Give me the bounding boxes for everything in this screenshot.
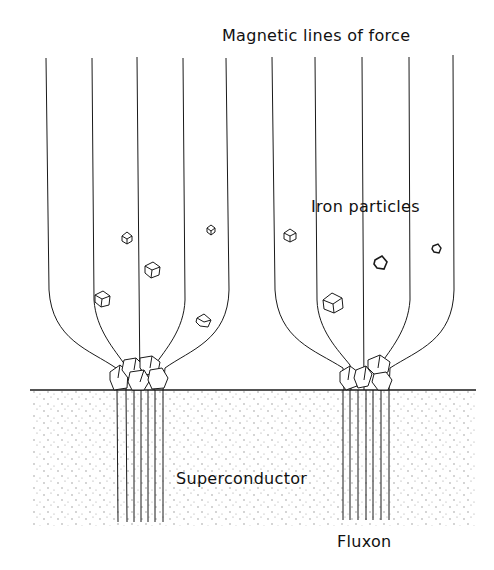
field-lines-left <box>46 57 229 390</box>
iron-particle <box>207 225 215 235</box>
iron-particle <box>374 256 387 269</box>
magnetic-lines-label: Magnetic lines of force <box>222 26 410 45</box>
fluxon-label: Fluxon <box>337 532 392 551</box>
iron-particle <box>284 229 296 242</box>
iron-cluster-right <box>340 355 392 390</box>
iron-cluster-left <box>110 356 168 390</box>
iron-particle <box>432 244 441 253</box>
iron-particles-label: Iron particles <box>311 197 420 216</box>
iron-particle <box>95 291 110 307</box>
superconductor-label: Superconductor <box>176 469 307 488</box>
superconductor-region <box>30 390 476 526</box>
field-lines-right <box>272 55 454 390</box>
iron-particle <box>196 314 211 327</box>
iron-particle <box>323 293 343 313</box>
iron-particles-floating <box>95 225 441 327</box>
iron-particle <box>122 232 132 244</box>
iron-particle <box>145 262 160 278</box>
